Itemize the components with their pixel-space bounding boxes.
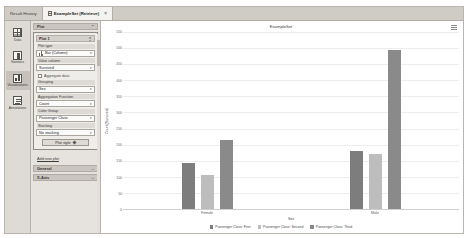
plot-section-label: Plot bbox=[37, 24, 44, 29]
chart-icon bbox=[13, 74, 22, 83]
y-axis-tick: 500 bbox=[116, 46, 122, 50]
bar-group bbox=[123, 32, 291, 209]
aggregation-function-select[interactable]: Count ▾ bbox=[36, 100, 95, 107]
rail-item-label: Data bbox=[14, 39, 21, 42]
tab-result-history[interactable]: Result History bbox=[5, 7, 43, 20]
close-icon[interactable]: × bbox=[104, 11, 107, 16]
color-group-select[interactable]: Passenger Class ▾ bbox=[36, 115, 95, 122]
plot-area: Count(Survived) 550500450400350300250200… bbox=[103, 32, 459, 210]
plot-section-header[interactable]: Plot ⌃ bbox=[33, 23, 98, 30]
plot-style-button[interactable]: Plot style bbox=[42, 139, 89, 146]
rail-item-annotations[interactable]: Annotations bbox=[6, 93, 30, 113]
legend-item[interactable]: Passenger Class: Second bbox=[258, 225, 304, 229]
rail-item-label: Statistics bbox=[11, 61, 24, 64]
statistics-icon bbox=[13, 51, 22, 60]
y-axis-tick: 350 bbox=[116, 95, 122, 99]
chart-panel: ExampleSet Count(Survived) 5505004504003… bbox=[101, 21, 463, 233]
xaxis-section-label: X-Axis bbox=[37, 175, 49, 180]
annotations-icon bbox=[13, 96, 22, 105]
chevron-down-icon[interactable]: ▾ bbox=[90, 87, 92, 91]
chart-title: ExampleSet bbox=[270, 24, 293, 29]
tab-label: ExampleSet (Retrieve) bbox=[54, 11, 99, 16]
stacking-label: Stacking bbox=[37, 123, 95, 128]
results-window: Result History ExampleSet (Retrieve) × D… bbox=[4, 6, 464, 234]
value-column-label: Value column bbox=[37, 58, 95, 63]
plot-config-panel: Plot ⌃ Plot 1 ⋮ Plot type Bar (Column) ▾… bbox=[31, 21, 101, 233]
aggregation-function-label: Aggregation Function bbox=[37, 94, 95, 99]
x-axis-tick-label: Male bbox=[291, 210, 459, 217]
general-section-label: General bbox=[37, 166, 52, 171]
chevron-down-icon[interactable]: ▾ bbox=[90, 116, 92, 120]
plot-style-label: Plot style bbox=[55, 141, 70, 145]
stacking-select[interactable]: No stacking ▾ bbox=[36, 129, 95, 136]
chevron-up-icon[interactable]: ⌃ bbox=[91, 25, 94, 29]
chevron-down-icon[interactable]: ▾ bbox=[90, 131, 92, 135]
rail-item-data[interactable]: Data bbox=[6, 25, 30, 45]
chart-topbar: ExampleSet bbox=[103, 24, 459, 32]
y-axis-tick: 450 bbox=[116, 62, 122, 66]
legend-label: Passenger Class: First bbox=[215, 225, 250, 229]
drag-handle-icon[interactable]: ⋮ bbox=[88, 36, 92, 41]
color-group-value: Passenger Class bbox=[39, 116, 68, 120]
y-axis-ticks: 550500450400350300250200150100500 bbox=[110, 32, 123, 210]
y-axis-tick: 50 bbox=[118, 192, 122, 196]
plot-1-label: Plot 1 bbox=[39, 36, 50, 41]
results-body: Data Statistics Visualizations Annotatio… bbox=[5, 21, 463, 233]
grouping-value: Sex bbox=[39, 87, 46, 91]
plot-type-select[interactable]: Bar (Column) ▾ bbox=[36, 50, 95, 57]
chevron-down-icon[interactable]: ⌄ bbox=[91, 167, 94, 171]
legend-item[interactable]: Passenger Class: First bbox=[210, 225, 251, 229]
bar[interactable] bbox=[220, 140, 233, 210]
general-section-header[interactable]: General ⌄ bbox=[33, 165, 98, 172]
chevron-down-icon[interactable]: ▾ bbox=[90, 102, 92, 106]
legend-label: Passenger Class: Second bbox=[263, 225, 303, 229]
y-axis-tick: 550 bbox=[116, 30, 122, 34]
plot-type-label: Plot type bbox=[37, 44, 95, 49]
config-scrollbar-thumb[interactable] bbox=[97, 40, 100, 66]
plot-1-header[interactable]: Plot 1 ⋮ bbox=[36, 35, 95, 42]
tab-strip: Result History ExampleSet (Retrieve) × bbox=[5, 7, 463, 21]
legend-swatch bbox=[310, 225, 314, 229]
grouping-label: Grouping bbox=[37, 80, 95, 85]
bar-chart-icon bbox=[39, 51, 43, 56]
color-group-label: Color Group bbox=[37, 109, 95, 114]
aggregation-function-value: Count bbox=[39, 102, 49, 106]
tab-exampleset[interactable]: ExampleSet (Retrieve) × bbox=[43, 7, 113, 20]
table-icon bbox=[13, 28, 22, 37]
view-rail: Data Statistics Visualizations Annotatio… bbox=[5, 21, 31, 233]
config-scrollbar[interactable] bbox=[97, 34, 100, 233]
value-column-select[interactable]: Survived ▾ bbox=[36, 64, 95, 71]
y-axis-tick: 0 bbox=[120, 208, 122, 212]
grouping-select[interactable]: Sex ▾ bbox=[36, 86, 95, 93]
bar[interactable] bbox=[369, 154, 382, 209]
chevron-down-icon[interactable]: ▾ bbox=[90, 51, 92, 55]
checkbox-icon[interactable] bbox=[38, 74, 42, 78]
bar-series-container bbox=[123, 32, 459, 209]
legend-swatch bbox=[210, 225, 214, 229]
pencil-icon bbox=[72, 140, 76, 144]
legend-item[interactable]: Passenger Class: Third bbox=[310, 225, 352, 229]
y-axis-tick: 200 bbox=[116, 143, 122, 147]
rail-item-visualizations[interactable]: Visualizations bbox=[6, 71, 30, 91]
document-icon bbox=[48, 11, 52, 16]
bar[interactable] bbox=[201, 175, 214, 209]
bar[interactable] bbox=[350, 151, 363, 209]
bar[interactable] bbox=[182, 163, 195, 209]
chevron-down-icon[interactable]: ⌄ bbox=[91, 176, 94, 180]
x-axis-categories: FemaleMale bbox=[123, 210, 459, 217]
add-new-plot-link[interactable]: Add new plot bbox=[37, 157, 98, 161]
y-axis-tick: 300 bbox=[116, 111, 122, 115]
xaxis-section-header[interactable]: X-Axis ⌄ bbox=[33, 174, 98, 181]
chart-plot-grid bbox=[123, 32, 459, 210]
tab-strip-filler bbox=[113, 7, 463, 20]
chevron-down-icon[interactable]: ▾ bbox=[90, 66, 92, 70]
aggregate-data-checkbox[interactable]: Aggregate data bbox=[38, 74, 95, 78]
hamburger-icon[interactable] bbox=[451, 25, 457, 30]
y-axis-label: Count(Survived) bbox=[103, 32, 110, 210]
bar[interactable] bbox=[388, 50, 401, 209]
chart-legend: Passenger Class: FirstPassenger Class: S… bbox=[103, 223, 459, 231]
y-axis-tick: 150 bbox=[116, 159, 122, 163]
value-column-value: Survived bbox=[39, 66, 54, 70]
stacking-value: No stacking bbox=[39, 131, 59, 135]
rail-item-statistics[interactable]: Statistics bbox=[6, 48, 30, 68]
